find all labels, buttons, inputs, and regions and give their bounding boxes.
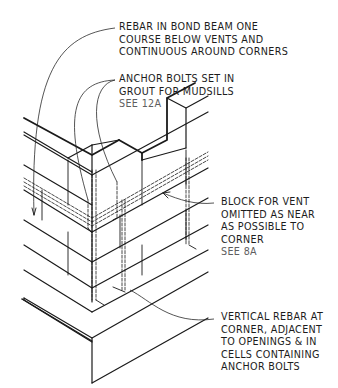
callout-line: TO OPENINGS & IN (221, 336, 323, 349)
callout-line: CONTINUOUS AROUND CORNERS (119, 46, 288, 59)
leader-anchor-bolt-1 (75, 80, 115, 200)
vertical-rebar (92, 158, 196, 305)
callout-line: CORNER, ADJACENT (221, 324, 323, 337)
callout-line: VERTICAL REBAR AT (221, 311, 323, 324)
callout-line: GROUT FOR MUDSILLS (119, 86, 235, 99)
bond-beam-rebar (24, 152, 208, 226)
callout-line: ANCHOR BOLTS SET IN (119, 73, 235, 86)
callout-line: COURSE BELOW VENTS AND (119, 34, 288, 47)
detail-reference: SEE 12A (119, 98, 235, 111)
leader-vent-block (163, 193, 214, 203)
callout-line: REBAR IN BOND BEAM ONE (119, 21, 288, 34)
callout-vent-block: BLOCK FOR VENT OMITTED AS NEAR AS POSSIB… (221, 196, 315, 259)
block-wall (24, 83, 208, 312)
callout-bond-beam-rebar: REBAR IN BOND BEAM ONE COURSE BELOW VENT… (119, 21, 288, 59)
leader-lines (32, 28, 214, 320)
callout-vertical-rebar: VERTICAL REBAR AT CORNER, ADJACENT TO OP… (221, 311, 323, 374)
callout-anchor-bolts: ANCHOR BOLTS SET IN GROUT FOR MUDSILLS S… (119, 73, 235, 111)
callout-line: BLOCK FOR VENT (221, 196, 315, 209)
callout-line: AS POSSIBLE TO (221, 221, 315, 234)
detail-reference: SEE 8A (221, 246, 315, 259)
callout-line: ANCHOR BOLTS (221, 361, 323, 374)
callout-line: CELLS CONTAINING (221, 349, 323, 362)
footing (22, 272, 208, 383)
leader-vertical-rebar (130, 290, 214, 320)
callout-line: CORNER (221, 234, 315, 247)
callout-line: OMITTED AS NEAR (221, 209, 315, 222)
foundation-corner-diagram: REBAR IN BOND BEAM ONE COURSE BELOW VENT… (0, 0, 338, 388)
